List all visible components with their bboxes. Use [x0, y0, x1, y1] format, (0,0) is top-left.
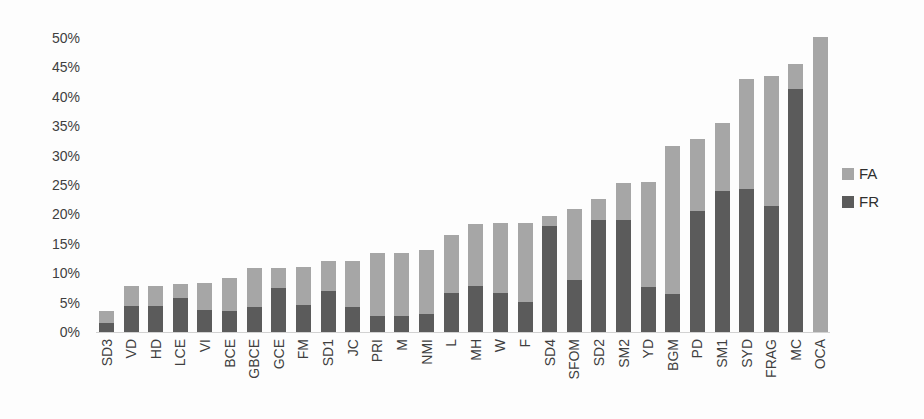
bar-PD	[690, 139, 705, 332]
y-tick-label: 40%	[0, 88, 80, 106]
x-tick-label-HD: HD	[148, 339, 164, 359]
y-tick-label: 30%	[0, 147, 80, 165]
x-tick-label-OCA: OCA	[812, 339, 828, 369]
bar-M	[394, 253, 409, 332]
bar-SD4	[542, 216, 557, 332]
bar-SFOM-fr-segment	[567, 280, 582, 332]
y-tick-label: 0%	[0, 323, 80, 341]
x-tick-label-SD3: SD3	[99, 339, 115, 366]
x-tick-label-SYD: SYD	[739, 339, 755, 368]
bar-PRI-fa-segment	[370, 253, 385, 316]
bar-GBCE-fa-segment	[247, 268, 262, 307]
x-tick-label-F: F	[517, 339, 533, 348]
bar-FM-fr-segment	[296, 305, 311, 332]
bar-BCE	[222, 278, 237, 332]
bar-GCE	[271, 268, 286, 332]
x-axis-line	[96, 332, 830, 333]
bar-VD-fr-segment	[124, 306, 139, 332]
bar-GCE-fr-segment	[271, 288, 286, 332]
bar-SD1-fr-segment	[321, 291, 336, 332]
x-tick-label-SD4: SD4	[542, 339, 558, 366]
x-tick-label-MH: MH	[468, 339, 484, 361]
bar-LCE-fr-segment	[173, 298, 188, 332]
legend-entry-fr: FR	[842, 193, 879, 210]
x-tick-label-FM: FM	[295, 339, 311, 359]
bar-SD1	[321, 261, 336, 332]
fa-series-swatch-icon	[842, 168, 854, 180]
x-tick-label-VI: VI	[197, 339, 213, 352]
stacked-bar-chart: 0%5%10%15%20%25%30%35%40%45%50% SD3VDHDL…	[0, 0, 924, 419]
bar-LCE	[173, 284, 188, 332]
y-tick-label: 25%	[0, 176, 80, 194]
x-tick-label-L: L	[443, 339, 459, 347]
x-tick-label-NMI: NMI	[419, 339, 435, 365]
x-tick-label-YD: YD	[640, 339, 656, 358]
bar-NMI	[419, 250, 434, 332]
x-tick-label-PRI: PRI	[369, 339, 385, 362]
bar-VI-fr-segment	[197, 310, 212, 332]
bar-SD2-fr-segment	[591, 220, 606, 332]
bar-MC-fa-segment	[788, 64, 803, 89]
x-tick-label-SM2: SM2	[616, 339, 632, 368]
bar-SM2-fa-segment	[616, 183, 631, 220]
bar-W	[493, 223, 508, 332]
bar-F	[518, 223, 533, 332]
bar-VD	[124, 286, 139, 332]
y-tick-label: 45%	[0, 58, 80, 76]
bar-BGM	[665, 146, 680, 332]
x-tick-label-BCE: BCE	[222, 339, 238, 368]
bar-YD-fa-segment	[641, 182, 656, 287]
bar-L-fa-segment	[444, 235, 459, 293]
bar-BCE-fa-segment	[222, 278, 237, 311]
x-tick-label-VD: VD	[123, 339, 139, 358]
bar-HD-fr-segment	[148, 306, 163, 332]
bar-HD-fa-segment	[148, 286, 163, 306]
bar-SM2-fr-segment	[616, 220, 631, 332]
bar-MH	[468, 224, 483, 332]
bar-SM1-fa-segment	[715, 123, 730, 191]
x-tick-label-PD: PD	[689, 339, 705, 358]
bar-SM2	[616, 183, 631, 332]
bar-GBCE	[247, 268, 262, 332]
x-tick-label-SM1: SM1	[714, 339, 730, 368]
x-tick-label-W: W	[492, 339, 508, 352]
bar-PD-fr-segment	[690, 211, 705, 332]
bar-OCA-fa-segment	[813, 37, 828, 332]
bar-FM	[296, 267, 311, 332]
y-tick-label: 15%	[0, 235, 80, 253]
legend-label-fr: FR	[859, 193, 879, 210]
bar-W-fa-segment	[493, 223, 508, 294]
y-tick-label: 35%	[0, 117, 80, 135]
bar-JC-fa-segment	[345, 261, 360, 306]
bar-SFOM	[567, 209, 582, 332]
bar-FRAG-fr-segment	[764, 206, 779, 332]
x-tick-label-JC: JC	[345, 339, 361, 356]
bar-SD3-fa-segment	[99, 311, 114, 323]
bar-FM-fa-segment	[296, 267, 311, 305]
legend-label-fa: FA	[859, 165, 877, 182]
bar-M-fr-segment	[394, 316, 409, 332]
bar-MC-fr-segment	[788, 89, 803, 332]
bar-SD1-fa-segment	[321, 261, 336, 291]
bar-PRI	[370, 253, 385, 332]
legend: FA FR	[842, 165, 879, 221]
bar-JC-fr-segment	[345, 307, 360, 332]
bar-F-fr-segment	[518, 302, 533, 332]
legend-entry-fa: FA	[842, 165, 879, 182]
bar-VI	[197, 283, 212, 332]
bar-PRI-fr-segment	[370, 316, 385, 332]
bar-HD	[148, 286, 163, 332]
x-tick-label-MC: MC	[788, 339, 804, 361]
fr-series-swatch-icon	[842, 196, 854, 208]
bar-L	[444, 235, 459, 332]
bar-SD3	[99, 311, 114, 332]
bar-FRAG	[764, 76, 779, 332]
bar-GCE-fa-segment	[271, 268, 286, 288]
bar-M-fa-segment	[394, 253, 409, 316]
y-tick-label: 10%	[0, 264, 80, 282]
bar-SM1	[715, 123, 730, 332]
x-tick-label-M: M	[394, 339, 410, 351]
bar-SM1-fr-segment	[715, 191, 730, 332]
bar-SD2	[591, 199, 606, 332]
bar-NMI-fr-segment	[419, 314, 434, 332]
